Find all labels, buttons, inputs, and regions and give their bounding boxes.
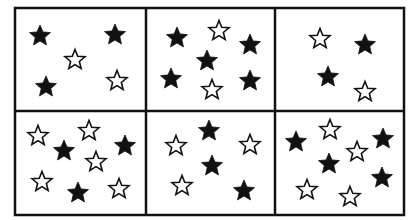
stars-layer: [28, 21, 393, 206]
outline-star-icon: [320, 120, 340, 139]
filled-star-icon: [355, 34, 376, 54]
filled-star-icon: [202, 155, 223, 175]
filled-star-icon: [54, 140, 75, 160]
panel-r1-c3: [310, 29, 375, 101]
panel-r1-c1: [30, 24, 127, 96]
panel-r2-c2: [166, 120, 260, 200]
panel-r1-c2: [161, 21, 261, 99]
filled-star-icon: [30, 25, 51, 45]
outline-star-icon: [340, 187, 360, 206]
outline-star-icon: [28, 126, 48, 145]
filled-star-icon: [372, 167, 393, 187]
panel-r2-c3: [286, 120, 394, 206]
filled-star-icon: [68, 182, 89, 202]
outline-star-icon: [86, 152, 106, 171]
filled-star-icon: [318, 66, 339, 86]
filled-star-icon: [319, 153, 340, 173]
grid-borders: [15, 8, 404, 215]
outline-star-icon: [107, 71, 127, 90]
filled-star-icon: [373, 128, 394, 148]
panel-r2-c1: [28, 121, 135, 202]
filled-star-icon: [234, 180, 255, 200]
outline-star-icon: [166, 136, 186, 155]
filled-star-icon: [115, 135, 136, 155]
outline-star-icon: [355, 82, 375, 101]
filled-star-icon: [240, 70, 261, 90]
filled-star-icon: [199, 120, 220, 140]
filled-star-icon: [197, 50, 218, 70]
outline-star-icon: [32, 172, 52, 191]
outline-star-icon: [172, 176, 192, 195]
filled-star-icon: [240, 34, 261, 54]
outline-star-icon: [347, 142, 367, 161]
outline-star-icon: [109, 179, 129, 198]
outline-star-icon: [202, 80, 222, 99]
outline-star-icon: [240, 135, 260, 154]
filled-star-icon: [105, 24, 126, 44]
filled-star-icon: [36, 76, 57, 96]
outline-star-icon: [310, 29, 330, 48]
outline-star-icon: [297, 180, 317, 199]
outline-star-icon: [65, 50, 85, 69]
outline-star-icon: [209, 21, 229, 40]
filled-star-icon: [167, 27, 188, 47]
star-panel-grid: [0, 0, 412, 220]
filled-star-icon: [161, 68, 182, 88]
outline-star-icon: [79, 121, 99, 140]
filled-star-icon: [286, 131, 307, 151]
